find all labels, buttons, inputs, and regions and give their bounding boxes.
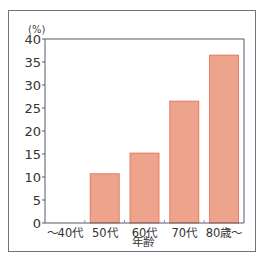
y-tick-label: 20 [24,124,41,139]
bars [90,55,238,223]
x-tick-label: 〜40代 [47,226,85,240]
y-tick-label: 5 [33,193,41,208]
x-axis-label: 年齢 [132,235,155,249]
y-tick-label: 25 [24,101,41,116]
y-tick-label: 35 [24,55,41,70]
bar-2 [130,153,159,223]
x-tick-label: 80歳〜 [206,226,244,240]
x-tick-label: 70代 [171,226,198,240]
x-tick-label: 50代 [92,226,119,240]
y-unit-label: (%) [28,24,45,35]
y-tick-label: 30 [24,78,41,93]
y-tick-label: 15 [24,147,41,162]
bar-3 [170,101,199,223]
y-axis-ticks: 0510152025303540 [24,32,45,231]
y-tick-label: 10 [24,170,41,185]
bar-1 [90,174,119,223]
bar-4 [210,55,239,223]
bar-chart: 0510152025303540 〜40代50代60代70代80歳〜 (%) 年… [0,0,263,264]
y-tick-label: 0 [33,216,41,231]
